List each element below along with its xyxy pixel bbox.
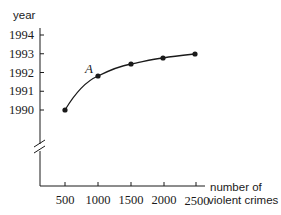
y-tick-1994: 1994 (9, 28, 35, 42)
data-point-2000 (160, 55, 165, 60)
data-point-500 (62, 107, 67, 112)
y-axis-label: year (13, 9, 36, 21)
y-tick-1993: 1993 (9, 47, 34, 61)
x-tick-2000: 2000 (152, 193, 177, 207)
y-ticks (40, 35, 44, 110)
y-tick-1992: 1992 (9, 66, 34, 80)
data-point-2500 (192, 51, 197, 56)
x-axis-label-line2: violent crimes (208, 194, 279, 206)
x-tick-2500: 2500 (185, 194, 210, 208)
data-point-1500 (128, 61, 133, 66)
point-label-a: A (84, 61, 93, 76)
x-axis-label-line1: number of (210, 181, 263, 193)
chart: year 1994 1993 1992 1991 1990 500 1000 (0, 0, 281, 215)
x-tick-labels: 500 1000 1500 2000 2500 (56, 193, 210, 208)
x-tick-1000: 1000 (86, 193, 111, 207)
data-points (62, 51, 197, 112)
x-tick-500: 500 (56, 193, 75, 207)
y-tick-1991: 1991 (9, 84, 34, 98)
data-point-1000 (95, 73, 100, 78)
x-tick-1500: 1500 (119, 193, 144, 207)
axes (40, 28, 205, 186)
x-ticks (65, 182, 196, 186)
y-tick-1990: 1990 (9, 103, 34, 117)
y-tick-labels: 1994 1993 1992 1991 1990 (9, 28, 35, 117)
